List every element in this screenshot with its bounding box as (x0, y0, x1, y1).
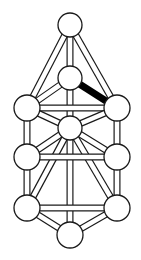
atom-node-bottom (57, 222, 83, 248)
atom-node-inner-top (58, 66, 82, 90)
atom-node-center (58, 116, 82, 140)
atom-node-left-mid (14, 95, 40, 121)
atom-node-right-mid (104, 95, 130, 121)
atom-node-bottom-right (104, 195, 130, 221)
atom-node-right-lower (104, 144, 130, 170)
atom-node-top (58, 13, 82, 37)
atom-node-left-lower (14, 144, 40, 170)
atom-node-bottom-left (14, 195, 40, 221)
molecule-graph-diagram (0, 0, 141, 260)
